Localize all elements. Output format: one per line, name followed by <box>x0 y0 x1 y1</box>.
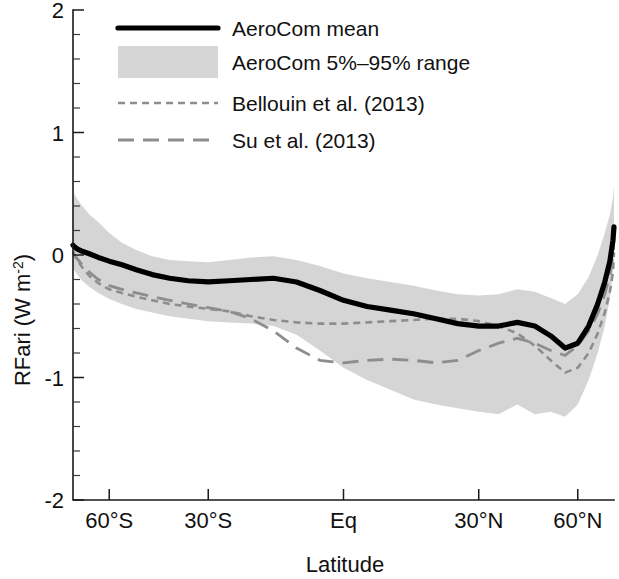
y-axis-title-main: RFari (W m <box>10 274 35 386</box>
legend-label: AeroCom mean <box>232 17 379 40</box>
x-tick-label: 60°N <box>553 508 602 533</box>
legend-label: Bellouin et al. (2013) <box>232 92 425 115</box>
y-tick-label: 1 <box>52 121 64 146</box>
legend-label: Su et al. (2013) <box>232 129 376 152</box>
y-tick-label: -2 <box>44 488 64 513</box>
y-axis-ticks <box>73 10 84 500</box>
plot-area <box>73 185 614 417</box>
y-tick-label: 0 <box>52 243 64 268</box>
x-axis-title: Latitude <box>306 552 384 577</box>
y-tick-label: -1 <box>44 366 64 391</box>
x-axis-tick-labels: 60°S30°SEq30°N60°N <box>85 508 602 533</box>
chart-legend: AeroCom meanAeroCom 5%–95% rangeBellouin… <box>118 17 470 152</box>
x-tick-label: Eq <box>330 508 357 533</box>
rfari-latitude-chart: 210-1-2 60°S30°SEq30°N60°N RFari (W m-2)… <box>0 0 619 579</box>
x-axis-ticks <box>109 489 578 500</box>
y-axis-title-close: ) <box>10 254 35 261</box>
y-axis-title-exponent: -2 <box>10 261 26 274</box>
legend-label: AeroCom 5%–95% range <box>232 51 470 74</box>
y-axis-tick-labels: 210-1-2 <box>44 0 64 513</box>
axis-frame <box>73 10 614 500</box>
chart-axes <box>73 10 614 500</box>
y-axis-title: RFari (W m-2) <box>10 254 35 386</box>
x-tick-label: 30°S <box>184 508 232 533</box>
y-tick-label: 2 <box>52 0 64 23</box>
x-tick-label: 60°S <box>85 508 133 533</box>
figure-container: 210-1-2 60°S30°SEq30°N60°N RFari (W m-2)… <box>0 0 619 579</box>
legend-swatch-range <box>118 46 218 78</box>
x-tick-label: 30°N <box>454 508 503 533</box>
